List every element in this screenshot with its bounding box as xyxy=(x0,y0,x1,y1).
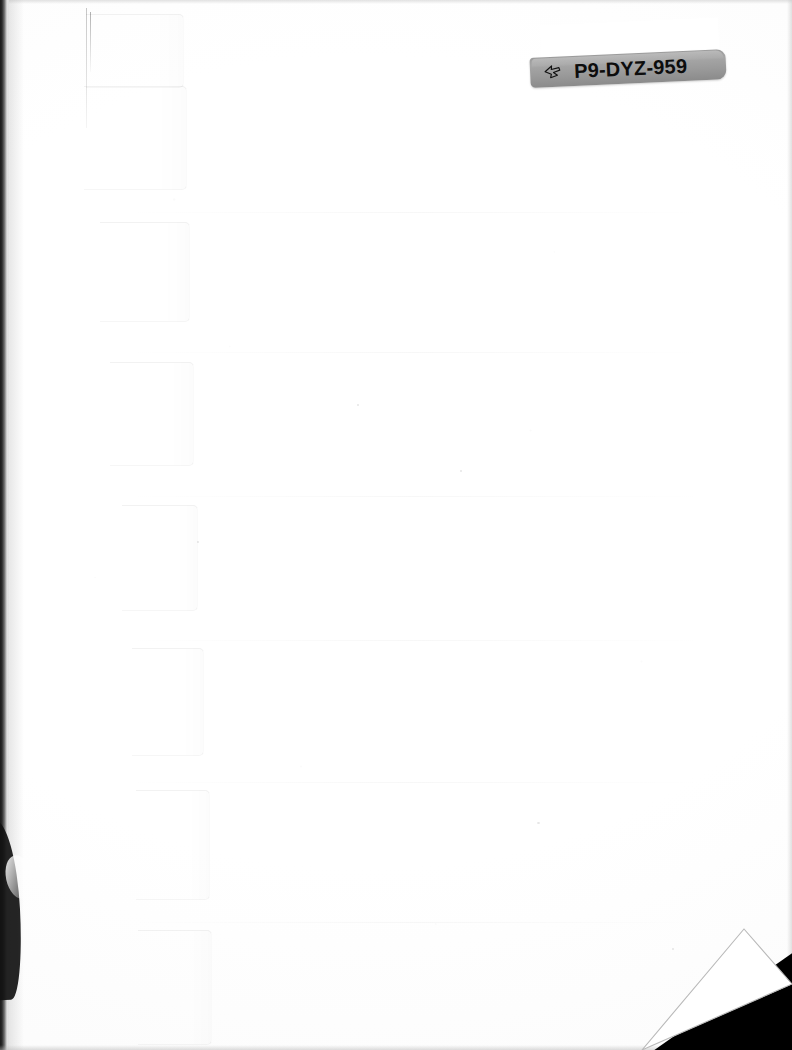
scan-speck xyxy=(197,541,199,543)
tab-spine-line xyxy=(86,8,87,128)
index-tab xyxy=(110,362,194,466)
scan-edge-right xyxy=(787,0,792,1050)
tab-spine-line-secondary xyxy=(90,12,91,72)
paper-crease xyxy=(120,922,712,923)
paper-crease xyxy=(120,352,712,353)
library-barcode-label: P9-DYZ-959 xyxy=(528,17,731,96)
scan-speck xyxy=(357,404,359,406)
scanned-page: P9-DYZ-959 xyxy=(0,0,792,1050)
scan-edge-top xyxy=(0,0,792,4)
index-tab xyxy=(132,648,204,756)
index-tab xyxy=(138,930,212,1045)
paper-crease xyxy=(120,496,712,497)
scan-speck xyxy=(460,470,462,472)
barcode-code-text: P9-DYZ-959 xyxy=(573,51,724,84)
index-tab xyxy=(122,505,198,611)
index-tab xyxy=(136,790,210,900)
paper-crease xyxy=(120,782,712,783)
paper-crease xyxy=(120,640,712,641)
index-tab xyxy=(86,14,184,88)
scan-speck xyxy=(537,822,540,824)
index-tab xyxy=(100,222,190,322)
index-tab xyxy=(84,86,187,190)
paper-crease xyxy=(120,212,712,213)
scan-speck xyxy=(672,948,674,950)
pointing-hand-icon xyxy=(542,61,565,82)
